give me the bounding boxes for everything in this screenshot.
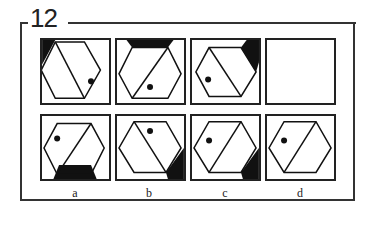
option-panel-b[interactable]	[115, 114, 186, 181]
question-panel-blank[interactable]	[265, 38, 336, 105]
hexagon-figure-icon	[117, 40, 184, 103]
hexagon-figure-icon	[267, 116, 334, 179]
hexagon-figure-icon	[117, 116, 184, 179]
hexagon-figure-icon	[192, 40, 259, 103]
hexagon-figure-icon	[42, 116, 109, 179]
option-label-b: b	[139, 186, 159, 201]
hexagon-figure-icon	[42, 40, 109, 103]
option-panel-c[interactable]	[190, 114, 261, 181]
option-label-a: a	[65, 186, 85, 201]
question-panel-3	[190, 38, 261, 105]
hexagon-figure-icon	[192, 116, 259, 179]
option-label-d: d	[290, 186, 310, 201]
option-label-c: c	[215, 186, 235, 201]
option-panel-d[interactable]	[265, 114, 336, 181]
option-panel-a[interactable]	[40, 114, 111, 181]
question-panel-1	[40, 38, 111, 105]
question-panel-2	[115, 38, 186, 105]
